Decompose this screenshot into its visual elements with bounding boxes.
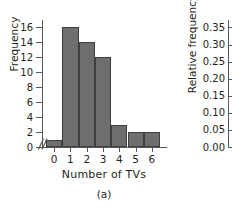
y-axis-label-frequency: Frequency <box>8 0 20 104</box>
x-axis-line <box>42 147 167 148</box>
secondary-y-tick: 0.10 <box>228 113 232 114</box>
histogram-figure: Frequency 0246810121416 0123456 Number o… <box>0 0 232 208</box>
secondary-y-tick: 0.30 <box>228 45 232 46</box>
relative-frequency-panel: Relative frequency 0.000.050.100.150.200… <box>170 0 232 208</box>
x-tick <box>70 147 71 152</box>
secondary-y-tick: 0.25 <box>228 62 232 63</box>
histogram-bar <box>62 27 78 147</box>
y-axis-line <box>42 20 43 148</box>
histogram-bar <box>144 132 160 147</box>
secondary-y-axis-line <box>228 20 229 148</box>
secondary-y-tick: 0.20 <box>228 79 232 80</box>
secondary-y-tick-label: 0.20 <box>203 74 225 84</box>
secondary-y-tick: 0.35 <box>228 27 232 28</box>
x-tick <box>87 147 88 152</box>
y-tick: 8 <box>36 87 42 88</box>
x-tick-label: 6 <box>144 154 160 165</box>
figure-caption: (a) <box>24 188 184 200</box>
histogram-bar <box>46 140 62 147</box>
y-tick-label: 10 <box>20 68 33 78</box>
x-tick-label: 3 <box>95 154 111 165</box>
y-tick: 12 <box>36 57 42 58</box>
histogram-bar <box>111 125 127 147</box>
x-tick <box>119 147 120 152</box>
y-tick: 14 <box>36 42 42 43</box>
y-tick-label: 14 <box>20 38 33 48</box>
x-tick-label: 1 <box>62 154 78 165</box>
secondary-y-tick: 0.15 <box>228 96 232 97</box>
y-tick-label: 6 <box>27 98 33 108</box>
y-tick-label: 0 <box>27 143 33 153</box>
histogram-bar <box>128 132 144 147</box>
secondary-y-tick-label: 0.30 <box>203 40 225 50</box>
y-tick-label: 2 <box>27 128 33 138</box>
x-tick-label: 4 <box>111 154 127 165</box>
secondary-y-tick-label: 0.00 <box>203 143 225 153</box>
secondary-y-tick-label: 0.15 <box>203 91 225 101</box>
x-tick <box>136 147 137 152</box>
y-tick-label: 12 <box>20 53 33 63</box>
y-tick: 10 <box>36 72 42 73</box>
secondary-y-tick: 0.00 <box>228 147 232 148</box>
y-tick-label: 16 <box>20 23 33 33</box>
secondary-y-tick-label: 0.05 <box>203 125 225 135</box>
x-axis-label: Number of TVs <box>24 168 184 181</box>
x-tick-label: 2 <box>79 154 95 165</box>
secondary-y-tick-label: 0.35 <box>203 23 225 33</box>
x-tick-label: 5 <box>128 154 144 165</box>
y-tick-label: 8 <box>27 83 33 93</box>
x-tick <box>152 147 153 152</box>
secondary-y-tick-label: 0.10 <box>203 108 225 118</box>
x-tick <box>103 147 104 152</box>
x-tick <box>54 147 55 152</box>
y-tick: 0 <box>36 147 42 148</box>
y-axis-label-relative-frequency: Relative frequency <box>186 0 198 104</box>
y-tick: 16 <box>36 27 42 28</box>
secondary-y-tick-label: 0.25 <box>203 57 225 67</box>
frequency-panel: Frequency 0246810121416 0123456 Number o… <box>0 0 170 208</box>
secondary-y-tick: 0.05 <box>228 130 232 131</box>
y-tick: 6 <box>36 102 42 103</box>
y-tick: 2 <box>36 132 42 133</box>
histogram-bar <box>79 42 95 147</box>
y-tick-label: 4 <box>27 113 33 123</box>
histogram-bar <box>95 57 111 147</box>
y-tick: 4 <box>36 117 42 118</box>
x-tick-label: 0 <box>46 154 62 165</box>
